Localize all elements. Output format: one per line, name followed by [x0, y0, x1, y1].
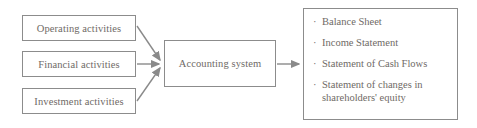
input-label-operating-activities: Operating activities — [37, 23, 122, 34]
process-label-accounting-system: Accounting system — [179, 58, 261, 69]
bullet-icon: · — [313, 79, 317, 92]
output-label-statement-of-changes-in-shareholders-equity: Statement of changes in shareholders' eq… — [322, 79, 451, 104]
accounting-flow-diagram: Operating activities Financial activitie… — [0, 0, 477, 128]
input-label-investment-activities: Investment activities — [34, 96, 123, 107]
arrow-operating-to-system — [137, 26, 160, 60]
input-box-financial-activities[interactable]: Financial activities — [22, 51, 136, 77]
list-item[interactable]: · Statement of changes in shareholders' … — [312, 79, 451, 104]
output-label-statement-of-cash-flows: Statement of Cash Flows — [322, 58, 451, 71]
output-label-balance-sheet: Balance Sheet — [322, 16, 451, 29]
list-item[interactable]: · Balance Sheet — [312, 16, 451, 29]
arrow-investment-to-system — [137, 68, 160, 101]
input-label-financial-activities: Financial activities — [38, 59, 120, 70]
bullet-icon: · — [313, 37, 317, 50]
output-label-income-statement: Income Statement — [322, 37, 451, 50]
list-item[interactable]: · Statement of Cash Flows — [312, 58, 451, 71]
process-box-accounting-system[interactable]: Accounting system — [164, 40, 276, 87]
list-item[interactable]: · Income Statement — [312, 37, 451, 50]
input-box-investment-activities[interactable]: Investment activities — [22, 88, 136, 114]
outputs-panel: · Balance Sheet · Income Statement · Sta… — [303, 8, 458, 120]
bullet-icon: · — [313, 16, 317, 29]
input-box-operating-activities[interactable]: Operating activities — [22, 15, 136, 41]
bullet-icon: · — [313, 58, 317, 71]
